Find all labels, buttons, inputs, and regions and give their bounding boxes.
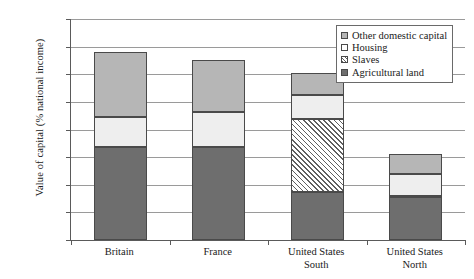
y-axis-tick <box>66 212 71 213</box>
housing-swatch <box>341 44 348 51</box>
legend-item[interactable]: Agricultural land <box>341 66 447 78</box>
bar-segment-housing[interactable] <box>389 174 442 196</box>
bar-segment-housing[interactable] <box>291 95 344 119</box>
x-axis-tick <box>268 240 269 245</box>
legend-item-label: Agricultural land <box>352 67 424 78</box>
legend-item-label: Housing <box>352 42 388 53</box>
other-domestic-capital-swatch <box>341 32 348 39</box>
bar-segment-agricultural-land[interactable] <box>389 197 442 240</box>
y-axis-tick <box>66 47 71 48</box>
bar-britain[interactable] <box>94 19 147 240</box>
bar-segment-other-domestic-capital[interactable] <box>94 52 147 117</box>
bar-segment-slaves[interactable] <box>389 196 442 198</box>
bar-segment-housing[interactable] <box>192 112 245 147</box>
bar-segment-slaves[interactable] <box>291 119 344 191</box>
bar-segment-agricultural-land[interactable] <box>192 147 245 240</box>
bar-france[interactable] <box>192 19 245 240</box>
legend-item[interactable]: Slaves <box>341 54 447 66</box>
chart-legend: Other domestic capitalHousingSlavesAgric… <box>336 25 453 83</box>
y-axis-tick <box>66 19 71 20</box>
agricultural-land-swatch <box>341 69 348 76</box>
x-axis-tick <box>465 240 466 245</box>
bar-segment-agricultural-land[interactable] <box>291 192 344 240</box>
bar-segment-other-domestic-capital[interactable] <box>192 60 245 111</box>
y-axis-tick <box>66 157 71 158</box>
x-axis-category-label-line: North <box>355 259 474 272</box>
stacked-bar-chart: Value of capital (% national income) 0%1… <box>0 0 474 279</box>
legend-item-label: Slaves <box>352 54 379 65</box>
y-axis-tick <box>66 102 71 103</box>
legend-item[interactable]: Other domestic capital <box>341 29 447 41</box>
x-axis-tick <box>367 240 368 245</box>
slaves-swatch <box>341 56 348 63</box>
bar-segment-housing[interactable] <box>94 117 147 147</box>
y-axis-tick <box>66 185 71 186</box>
x-axis-category-label: United StatesNorth <box>355 246 474 271</box>
y-axis-title: Value of capital (% national income) <box>34 3 45 233</box>
x-axis-tick <box>170 240 171 245</box>
legend-item[interactable]: Housing <box>341 41 447 53</box>
bar-segment-agricultural-land[interactable] <box>94 147 147 240</box>
x-axis-category-label-line: United States <box>355 246 474 259</box>
y-axis-tick <box>66 74 71 75</box>
y-axis-tick <box>66 130 71 131</box>
bar-segment-other-domestic-capital[interactable] <box>389 154 442 174</box>
x-axis-tick <box>71 240 72 245</box>
legend-item-label: Other domestic capital <box>352 30 447 41</box>
